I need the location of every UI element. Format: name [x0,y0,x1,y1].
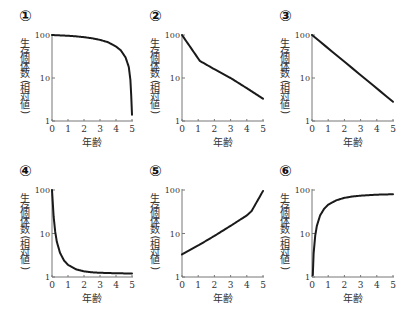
x-tick-label: 0 [179,124,185,134]
chart-panel-2: ②110100012345年齢生存個体数(相対値) [149,7,266,148]
svg-text:): ) [20,110,31,114]
x-tick-label: 3 [228,280,234,290]
x-tick-label: 1 [325,280,331,290]
x-tick-label: 4 [244,280,250,290]
y-tick-label: 100 [295,186,310,195]
x-tick-label: 1 [195,280,201,290]
svg-text:値: 値 [280,98,290,110]
x-tick-label: 0 [309,124,315,134]
x-axis-label: 年齢 [213,292,233,304]
x-tick-label: 4 [244,124,250,134]
survival-curve [313,194,393,275]
x-tick-label: 1 [325,124,331,134]
y-tick-label: 10 [40,74,50,83]
x-tick-label: 5 [260,124,266,134]
y-axis-label: 生存個体数(相対値) [20,192,31,270]
x-axis-label: 年齢 [213,136,233,148]
survival-curve [182,35,263,99]
chart-panel-6: ⑥110100012345年齢生存個体数(相対値) [279,162,396,304]
x-tick-label: 1 [195,124,201,134]
y-axis-label: 生存個体数(相対値) [150,37,161,114]
svg-text:): ) [280,266,291,270]
x-tick-label: 3 [97,280,103,290]
svg-text:): ) [20,266,31,270]
y-tick-label: 100 [35,31,50,40]
x-tick-label: 2 [81,124,87,134]
x-tick-label: 2 [212,124,218,134]
chart-panel-4: ④110100012345年齢生存個体数(相対値) [19,162,135,304]
svg-text:数: 数 [150,223,160,235]
chart-panel-5: ⑤110100012345年齢生存個体数(相対値) [149,162,266,304]
x-tick-label: 4 [374,280,380,290]
y-tick-label: 100 [35,186,50,195]
y-axis-label: 生存個体数(相対値) [280,37,291,114]
x-tick-label: 0 [309,280,315,290]
svg-text:): ) [150,110,161,114]
y-axis-label: 生存個体数(相対値) [280,192,291,270]
x-tick-label: 2 [342,280,348,290]
y-tick-label: 10 [300,74,310,83]
svg-text:値: 値 [20,253,30,265]
x-tick-label: 2 [342,124,348,134]
x-tick-label: 3 [358,124,364,134]
x-axis-label: 年齢 [343,136,363,148]
y-axis-label: 生存個体数(相対値) [150,192,161,270]
x-tick-label: 3 [97,124,103,134]
x-tick-label: 0 [179,280,185,290]
x-tick-label: 3 [358,280,364,290]
x-tick-label: 3 [228,124,234,134]
panel-number-label: ③ [279,7,292,25]
x-tick-label: 5 [390,280,396,290]
x-tick-label: 1 [65,280,71,290]
x-tick-label: 5 [129,124,135,134]
panel-number-label: ① [19,7,32,25]
y-tick-label: 10 [300,230,310,239]
svg-text:値: 値 [280,253,290,265]
x-tick-label: 4 [113,280,119,290]
x-tick-label: 1 [65,124,71,134]
y-tick-label: 100 [165,186,180,195]
panel-number-label: ② [149,7,162,25]
y-tick-label: 100 [165,31,180,40]
survival-curve [52,35,132,115]
svg-text:数: 数 [20,67,30,79]
y-tick-label: 10 [170,230,180,239]
chart-panel-3: ③110100012345年齢生存個体数(相対値) [279,7,396,148]
x-tick-label: 5 [390,124,396,134]
svg-text:): ) [280,110,291,114]
panel-number-label: ⑥ [279,162,292,180]
survival-curve [182,191,263,254]
svg-text:値: 値 [20,98,30,110]
x-tick-label: 4 [113,124,119,134]
panel-number-label: ⑤ [149,162,162,180]
survival-curve [52,190,132,274]
x-axis-label: 年齢 [82,292,102,304]
x-axis-label: 年齢 [343,292,363,304]
y-tick-label: 10 [170,74,180,83]
svg-text:数: 数 [150,67,160,79]
x-tick-label: 0 [49,124,55,134]
svg-text:値: 値 [150,253,160,265]
x-tick-label: 2 [81,280,87,290]
panel-number-label: ④ [19,162,32,180]
y-axis-label: 生存個体数(相対値) [20,37,31,114]
svg-text:): ) [150,266,161,270]
chart-panel-1: ①110100012345年齢生存個体数(相対値) [19,7,135,148]
x-tick-label: 2 [212,280,218,290]
y-tick-label: 100 [295,31,310,40]
x-tick-label: 0 [49,280,55,290]
y-tick-label: 10 [40,230,50,239]
svg-text:数: 数 [280,223,290,235]
x-tick-label: 4 [374,124,380,134]
survival-curves-figure: ①110100012345年齢生存個体数(相対値)②110100012345年齢… [0,0,415,319]
svg-text:数: 数 [20,223,30,235]
x-axis-label: 年齢 [82,136,102,148]
x-tick-label: 5 [129,280,135,290]
svg-text:値: 値 [150,98,160,110]
x-tick-label: 5 [260,280,266,290]
svg-text:数: 数 [280,67,290,79]
survival-curve [312,35,393,102]
